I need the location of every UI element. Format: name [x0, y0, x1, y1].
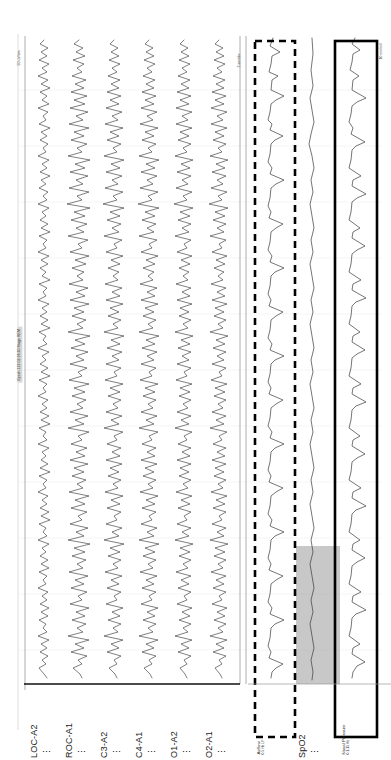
- channel-label-row: LOC-A2 ⋮ ROC-A1 ⋮ C3-A2 ⋮ C4-A1 ⋮ O1-A2 …: [0, 678, 391, 760]
- trace-c4-a1: [138, 40, 159, 678]
- scale-note-mid: 2 sec/div: [238, 53, 242, 67]
- channel-dots-o1-a2: ⋮: [183, 746, 192, 756]
- trace-roc-a1: [67, 40, 90, 678]
- trace-airflow: [268, 38, 284, 678]
- channel-label-c3-a2: C3-A2: [100, 731, 109, 758]
- channel-label-loc-a2: LOC-A2: [30, 724, 39, 758]
- trace-o1-a2: [174, 40, 193, 678]
- channel-dots-o2-a1: ⋮: [218, 746, 227, 756]
- channel-label-spo2: SpO2: [298, 734, 307, 758]
- trace-loc-a2: [38, 40, 50, 678]
- scale-note-top-left: 50 uV/cm: [18, 50, 22, 65]
- channel-label-o2-a1: O2-A1: [205, 731, 214, 758]
- channel-label-o1-a2: O1-A2: [170, 731, 179, 758]
- channel-dots-spo2: ⋮: [311, 746, 320, 756]
- trace-nasal-pressure: [349, 38, 366, 678]
- dashed-highlight-box: [255, 41, 295, 737]
- channel-label-c4-a1: C4-A1: [135, 731, 144, 758]
- trace-svg: [0, 0, 391, 760]
- axis-rules: [25, 36, 246, 690]
- channel-dots-c4-a1: ⋮: [148, 746, 157, 756]
- channel-dots-c3-a2: ⋮: [113, 746, 122, 756]
- psg-recording-page: 50 uV/cm Epoch 122 02:16:30 Stage REM 2 …: [0, 0, 391, 760]
- spo2-shaded-region: [296, 546, 340, 684]
- channel-label-nasal-pressure: Nasal Pressure 0.1-15 Hz: [342, 724, 351, 754]
- channel-label-roc-a1: ROC-A1: [65, 723, 74, 758]
- channel-dots-roc-a1: ⋮: [78, 746, 87, 756]
- channel-label-airflow: Airflow 0.5 Hz LF: [257, 739, 266, 754]
- epoch-banner: Epoch 122 02:16:30 Stage REM: [17, 327, 22, 383]
- channel-sublabel-airflow: 0.5 Hz LF: [262, 739, 265, 754]
- scale-note-corner: 10 mm/mV: [380, 43, 383, 59]
- trace-sheet: [0, 0, 391, 760]
- channel-sublabel-nasal-pressure: 0.1-15 Hz: [347, 724, 350, 754]
- trace-c3-a2: [103, 40, 124, 678]
- solid-highlight-box: [335, 41, 377, 737]
- trace-o2-a1: [209, 40, 228, 678]
- channel-dots-loc-a2: ⋮: [43, 746, 52, 756]
